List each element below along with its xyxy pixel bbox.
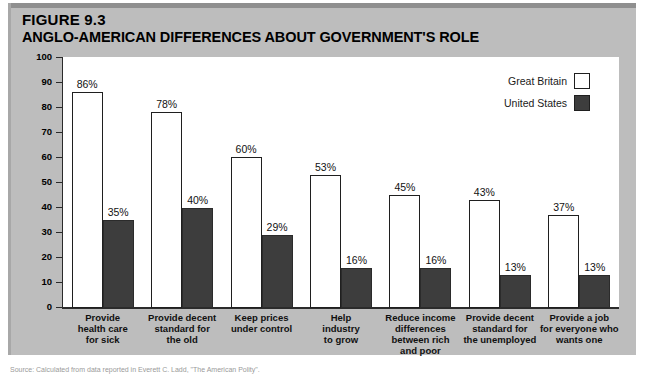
category-label-line: Provide decent	[457, 312, 542, 323]
category-label: Providehealth carefor sick	[60, 312, 145, 345]
bar-united-states[interactable]: 13%	[579, 275, 610, 308]
figure-title: ANGLO-AMERICAN DIFFERENCES ABOUT GOVERNM…	[22, 29, 479, 46]
bar-value-label: 37%	[553, 201, 574, 213]
bar-value-label: 35%	[108, 206, 129, 218]
figure-number: FIGURE 9.3	[22, 12, 479, 28]
category-label-line: for sick	[60, 334, 145, 345]
bar-great-britain[interactable]: 45%	[389, 195, 420, 308]
category-label-line: and poor	[378, 345, 463, 356]
bar-value-label: 53%	[315, 161, 336, 173]
category-label-line: under control	[219, 323, 304, 334]
y-axis-tick	[56, 82, 62, 83]
bar-value-label: 13%	[584, 261, 605, 273]
category-label-line: industry	[298, 323, 383, 334]
category-label-line: health care	[60, 323, 145, 334]
bar-value-label: 29%	[267, 221, 288, 233]
y-axis-tick-label: 90	[30, 77, 52, 86]
category-label-line: Provide	[60, 312, 145, 323]
bar-group: 37%13%	[548, 57, 610, 308]
panel-top-bar	[8, 3, 636, 8]
bar-united-states[interactable]: 16%	[341, 268, 372, 308]
category-label: Provide a jobfor everyone whowants one	[537, 312, 622, 345]
bar-united-states[interactable]: 35%	[103, 220, 134, 308]
category-label-line: the unemployed	[457, 334, 542, 345]
y-axis-tick	[56, 157, 62, 158]
bar-value-label: 86%	[77, 78, 98, 90]
y-axis-tick-label: 20	[30, 252, 52, 261]
source-note: Source: Calculated from data reported in…	[10, 366, 630, 376]
bar-group: 78%40%	[151, 57, 213, 308]
bar-value-label: 78%	[156, 98, 177, 110]
bar-value-label: 43%	[474, 186, 495, 198]
category-label-line: standard for	[457, 323, 542, 334]
bar-united-states[interactable]: 40%	[182, 208, 213, 308]
category-label-line: the old	[139, 334, 224, 345]
bar-great-britain[interactable]: 86%	[72, 92, 103, 308]
category-axis-labels: Providehealth carefor sickProvide decent…	[63, 312, 619, 356]
y-axis-tick-label: 70	[30, 127, 52, 136]
bar-united-states[interactable]: 29%	[262, 235, 293, 308]
category-label-line: to grow	[298, 334, 383, 345]
bar-value-label: 16%	[346, 254, 367, 266]
category-label-line: standard for	[139, 323, 224, 334]
y-axis-tick-label: 100	[30, 52, 52, 61]
y-axis-tick-label: 60	[30, 152, 52, 161]
figure-title-block: FIGURE 9.3 ANGLO-AMERICAN DIFFERENCES AB…	[22, 12, 479, 46]
bar-great-britain[interactable]: 53%	[310, 175, 341, 308]
bar-groups: 86%35%78%40%60%29%53%16%45%16%43%13%37%1…	[63, 57, 619, 308]
bar-great-britain[interactable]: 78%	[151, 112, 182, 308]
y-axis-tick	[56, 107, 62, 108]
y-axis-tick	[56, 182, 62, 183]
y-axis-tick-label: 50	[30, 177, 52, 186]
bar-value-label: 40%	[187, 194, 208, 206]
category-label-line: Help	[298, 312, 383, 323]
category-label-line: differences	[378, 323, 463, 334]
y-axis-tick-label: 10	[30, 277, 52, 286]
y-axis-tick	[56, 57, 62, 58]
y-axis-tick	[56, 282, 62, 283]
y-axis-tick-label: 40	[30, 202, 52, 211]
figure-root: FIGURE 9.3 ANGLO-AMERICAN DIFFERENCES AB…	[0, 0, 646, 377]
bar-group: 43%13%	[469, 57, 531, 308]
y-axis-tick	[56, 257, 62, 258]
bar-value-label: 16%	[425, 254, 446, 266]
category-label-line: wants one	[537, 334, 622, 345]
category-label-line: Keep prices	[219, 312, 304, 323]
y-axis-tick-label: 0	[30, 302, 52, 311]
category-label: Provide decentstandard forthe old	[139, 312, 224, 345]
bar-great-britain[interactable]: 60%	[231, 157, 262, 308]
bar-value-label: 60%	[236, 143, 257, 155]
y-axis-tick-label: 80	[30, 102, 52, 111]
y-axis-tick	[56, 232, 62, 233]
bar-group: 53%16%	[310, 57, 372, 308]
category-label-line: between rich	[378, 334, 463, 345]
category-label-line: Provide a job	[537, 312, 622, 323]
y-axis-tick	[56, 207, 62, 208]
category-label: Helpindustryto grow	[298, 312, 383, 345]
y-axis-tick	[56, 307, 62, 308]
category-label-line: Provide decent	[139, 312, 224, 323]
bar-group: 45%16%	[389, 57, 451, 308]
category-label-line: for everyone who	[537, 323, 622, 334]
category-label-line: Reduce income	[378, 312, 463, 323]
bar-group: 86%35%	[72, 57, 134, 308]
y-axis-tick-label: 30	[30, 227, 52, 236]
y-axis-tick	[56, 132, 62, 133]
bar-united-states[interactable]: 13%	[500, 275, 531, 308]
bar-value-label: 45%	[394, 181, 415, 193]
category-label: Keep pricesunder control	[219, 312, 304, 334]
panel-left-edge	[8, 3, 11, 355]
bar-great-britain[interactable]: 37%	[548, 215, 579, 308]
bar-group: 60%29%	[231, 57, 293, 308]
bar-united-states[interactable]: 16%	[420, 268, 451, 308]
category-label: Reduce incomedifferencesbetween richand …	[378, 312, 463, 356]
category-label: Provide decentstandard forthe unemployed	[457, 312, 542, 345]
bar-great-britain[interactable]: 43%	[469, 200, 500, 308]
bar-value-label: 13%	[505, 261, 526, 273]
